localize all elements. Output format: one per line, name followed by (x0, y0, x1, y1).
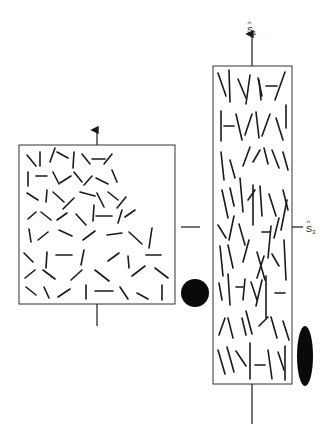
fiber-segment (248, 190, 255, 200)
fiber-segment (117, 197, 126, 208)
fiber-segment (46, 190, 47, 202)
fiber-segment (269, 194, 276, 216)
fiber-segment (229, 216, 234, 240)
fiber-segment (118, 210, 122, 223)
fiber-segment (73, 152, 74, 168)
fiber-segment (259, 317, 268, 326)
fiber-segment (27, 193, 38, 200)
circle-cross-section-icon (181, 279, 209, 307)
fiber-segment (227, 347, 234, 372)
fiber-segment (57, 152, 68, 158)
fiber-segment (236, 114, 242, 140)
fiber-segment (221, 152, 224, 180)
random-fibers (24, 148, 168, 300)
fiber-segment (278, 352, 284, 370)
fiber-segment (240, 178, 243, 212)
left-panel-isotropic (19, 130, 209, 326)
fiber-segment (128, 256, 129, 268)
fiber-segment (80, 192, 95, 196)
fiber-segment (43, 270, 55, 279)
fiber-segment (268, 226, 271, 258)
fiber-segment (82, 154, 90, 164)
fiber-segment (112, 170, 117, 182)
fiber-segment (44, 287, 49, 298)
fiber-segment (155, 268, 168, 278)
fiber-segment (243, 147, 250, 166)
fiber-segment (41, 212, 51, 220)
fiber-segment (29, 229, 31, 242)
fiber-segment (230, 188, 234, 206)
s1-axis-label: ^S1 (247, 26, 256, 36)
fiber-segment (83, 231, 95, 240)
s3-axis-label: ^S3 (306, 225, 315, 235)
s3-hat: ^ (307, 219, 311, 227)
fiber-segment (229, 70, 230, 102)
fiber-segment (71, 270, 82, 280)
right-panel-aligned (213, 34, 313, 424)
fiber-segment (50, 148, 55, 162)
fiber-segment (220, 246, 223, 276)
fiber-segment (76, 214, 86, 225)
fiber-segment (256, 280, 262, 306)
fiber-segment (60, 176, 71, 183)
fiber-segment (268, 350, 272, 379)
fiber-segment (132, 266, 145, 276)
fiber-segment (239, 224, 245, 245)
fiber-segment (93, 205, 94, 221)
fiber-segment (53, 172, 59, 184)
fiber-segment (260, 186, 262, 216)
fiber-segment (230, 160, 235, 178)
fiber-segment (84, 176, 92, 185)
fiber-segment (283, 321, 289, 340)
fiber-segment (271, 317, 277, 338)
fiber-segment (272, 254, 279, 266)
fiber-segment (63, 198, 74, 209)
ellipse-cross-section-icon (297, 326, 313, 386)
fiber-segment (218, 225, 226, 238)
fiber-segment (246, 311, 252, 334)
aligned-fibers (218, 70, 289, 380)
fiber-segment (222, 190, 228, 218)
fiber-segment (97, 193, 104, 207)
fiber-segment (283, 152, 288, 170)
fiber-segment (264, 148, 268, 164)
fiber-segment (236, 351, 246, 366)
fiber-segment (256, 112, 259, 138)
fiber-segment (276, 118, 283, 140)
fiber-segment (108, 192, 118, 200)
fiber-segment (243, 279, 245, 300)
fiber-segment (53, 192, 64, 202)
fiber-segment (38, 232, 48, 240)
fiber-segment (137, 293, 148, 299)
fiber-segment (120, 287, 128, 299)
fiber-segment (129, 232, 142, 244)
fiber-segment (25, 270, 35, 278)
fiber-segment (253, 150, 260, 162)
fiber-segment (281, 200, 287, 230)
fiber-segment (125, 210, 135, 217)
fiber-segment (262, 114, 270, 136)
fiber-segment (58, 289, 70, 297)
fiber-segment (59, 230, 72, 236)
fiber-segment (272, 150, 279, 168)
fiber-segment (228, 274, 230, 305)
fiber-segment (28, 212, 36, 219)
fiber-segment (284, 240, 286, 280)
fiber-segment (245, 114, 252, 135)
fiber-segment (274, 218, 279, 238)
fiber-segment (219, 318, 225, 335)
fiber-segment (218, 73, 226, 96)
s1-hat: ^ (248, 20, 252, 28)
fiber-segment (74, 172, 82, 182)
fiber-segment (242, 318, 246, 335)
fiber-segment (149, 228, 152, 248)
fiber-segment (95, 270, 109, 281)
s1-subscript: 1 (253, 30, 256, 36)
fiber-segment (228, 318, 233, 338)
fiber-segment (24, 253, 33, 262)
s3-subscript: 3 (312, 229, 315, 235)
fiber-segment (251, 282, 257, 300)
left-sample-box (19, 145, 175, 304)
fiber-segment (46, 252, 47, 268)
fiber-segment (107, 233, 122, 235)
